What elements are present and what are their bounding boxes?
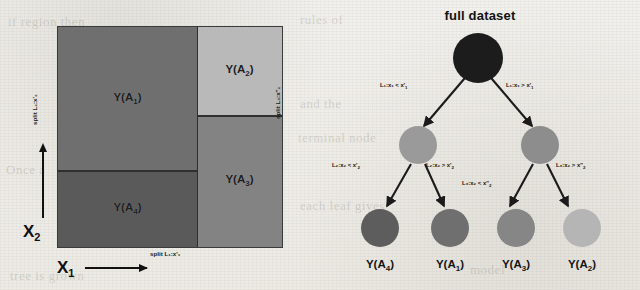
region-A2-label: Y(A2) <box>225 63 253 78</box>
tree-leaf-label-A1: Y(A1) <box>436 258 464 273</box>
tree-node-left-internal <box>399 126 437 164</box>
region-A3-label: Y(A3) <box>225 173 253 188</box>
split-label-L2: split L₂:x'₂ <box>31 94 38 125</box>
edge-label-L1-left: L₁:x₁ < x'1 <box>380 82 408 90</box>
edge-root-right <box>486 72 532 126</box>
region-A1: Y(A1) <box>58 27 197 170</box>
x2-axis-arrow-icon <box>42 152 44 218</box>
split-line-left-horizontal <box>58 170 197 172</box>
edge-left-to-A1 <box>425 164 444 206</box>
x1-axis-label: X1 <box>57 258 74 279</box>
tree-leaf-A2 <box>563 209 601 247</box>
tree-leaf-label-A4: Y(A4) <box>366 258 394 273</box>
split-label-L1: split L₁:x'₁ <box>150 250 180 257</box>
tree-leaf-A1 <box>431 209 469 247</box>
region-A2: Y(A2) <box>197 27 282 115</box>
decision-tree-panel: full dataset Y(A4) Y(A1) Y( <box>320 0 640 290</box>
tree-leaf-label-A2: Y(A2) <box>568 258 596 273</box>
tree-node-right-internal <box>521 126 559 164</box>
partition-square-panel: Y(A1) Y(A4) Y(A2) Y(A3) split L₁:x'₁ spl… <box>0 0 320 290</box>
edge-label-L2-left: L₂:x₂ < x'2 <box>332 162 360 170</box>
edge-root-left <box>424 72 470 126</box>
tree-leaf-A3 <box>497 209 535 247</box>
x1-axis-arrow-icon <box>85 267 147 269</box>
region-A4: Y(A4) <box>58 170 197 247</box>
x2-axis-label: X2 <box>23 222 40 243</box>
partition-square: Y(A1) Y(A4) Y(A2) Y(A3) <box>57 26 283 248</box>
tree-leaf-A4 <box>361 209 399 247</box>
tree-leaf-label-A3: Y(A3) <box>502 258 530 273</box>
split-label-L3: split L₃:x''₂ <box>274 87 281 119</box>
split-line-right-horizontal <box>197 115 282 117</box>
edge-right-to-A2 <box>547 164 568 206</box>
tree-node-root <box>453 33 503 83</box>
region-A3: Y(A3) <box>197 115 282 247</box>
region-A4-label: Y(A4) <box>113 201 141 216</box>
edge-label-L2-right: L₂:x₂ > x'2 <box>426 162 454 170</box>
split-line-vertical <box>197 27 199 247</box>
region-A1-label: Y(A1) <box>113 91 141 106</box>
edge-right-to-A3 <box>510 164 533 206</box>
edge-label-L3-right: L₃:x₂ > x''2 <box>556 162 585 170</box>
edge-left-to-A4 <box>387 164 411 206</box>
edge-label-L1-right: L₁:x₁ > x'1 <box>506 82 534 90</box>
edge-label-L3-left: L₃:x₂ < x''2 <box>462 180 491 188</box>
